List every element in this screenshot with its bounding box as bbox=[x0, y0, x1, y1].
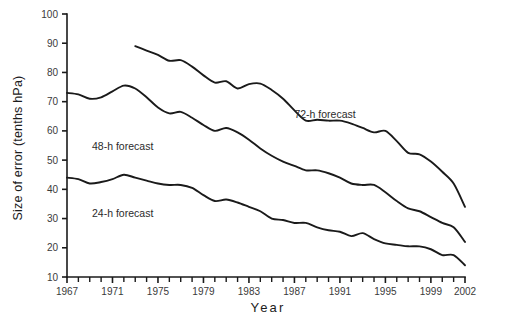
y-axis-title: Size of error (tenths hPa) bbox=[11, 76, 25, 221]
chart-figure: 100908070605040302010 196719711975197919… bbox=[0, 0, 510, 320]
x-axis-title: Year bbox=[250, 300, 285, 315]
y-tick-label: 40 bbox=[47, 184, 59, 195]
x-axis: 1967197119751979198319871991199519992002 bbox=[56, 277, 477, 297]
x-tick-label: 1983 bbox=[238, 286, 261, 297]
x-tick-label: 1971 bbox=[101, 286, 124, 297]
x-tick-label: 2002 bbox=[454, 286, 477, 297]
line-chart: 100908070605040302010 196719711975197919… bbox=[0, 0, 510, 320]
x-tick-label: 1995 bbox=[374, 286, 397, 297]
y-tick-label: 50 bbox=[47, 155, 59, 166]
series-line-24-h-forecast bbox=[67, 175, 465, 266]
x-tick-label: 1987 bbox=[283, 286, 306, 297]
x-tick-label: 1967 bbox=[56, 286, 79, 297]
y-tick-label: 60 bbox=[47, 125, 59, 136]
series-annotations: 72-h forecast48-h forecast24-h forecast bbox=[92, 108, 356, 219]
annotation-48-h-forecast: 48-h forecast bbox=[92, 140, 153, 152]
y-tick-label: 70 bbox=[47, 96, 59, 107]
y-tick-label: 100 bbox=[41, 9, 58, 20]
y-tick-label: 10 bbox=[47, 272, 59, 283]
series-line-72-h-forecast bbox=[135, 46, 465, 207]
y-tick-label: 80 bbox=[47, 67, 59, 78]
x-tick-label: 1979 bbox=[192, 286, 215, 297]
annotation-24-h-forecast: 24-h forecast bbox=[92, 207, 153, 219]
x-tick-label: 1991 bbox=[329, 286, 352, 297]
series-lines bbox=[67, 46, 465, 265]
y-tick-label: 20 bbox=[47, 242, 59, 253]
annotation-72-h-forecast: 72-h forecast bbox=[294, 108, 355, 120]
x-tick-label: 1975 bbox=[147, 286, 170, 297]
y-tick-label: 90 bbox=[47, 38, 59, 49]
x-tick-label: 1999 bbox=[420, 286, 443, 297]
y-tick-label: 30 bbox=[47, 213, 59, 224]
y-axis: 100908070605040302010 bbox=[41, 9, 67, 283]
